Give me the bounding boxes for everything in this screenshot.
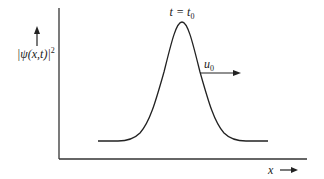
velocity-label: u0: [204, 57, 214, 73]
gaussian-wave-packet: [98, 22, 268, 141]
x-axis-arrow-icon: [280, 167, 298, 173]
time-label: t = t0: [170, 5, 195, 21]
y-axis-arrow-icon: [34, 26, 40, 46]
y-axis-label: |ψ(x,t)|2: [17, 46, 55, 61]
x-axis-label: x: [267, 163, 274, 177]
wave-packet-figure: |ψ(x,t)|2 t = t0 u0 x: [0, 0, 324, 179]
